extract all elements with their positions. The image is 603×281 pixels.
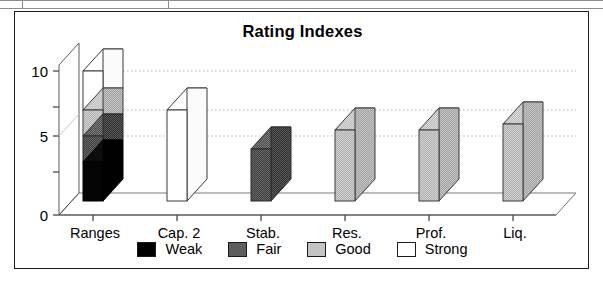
chart-legend: Weak Fair Good Strong xyxy=(15,241,590,257)
x-label-liq: Liq. xyxy=(503,225,526,241)
bar-res[interactable] xyxy=(335,108,375,201)
y-tick-label-0: 0 xyxy=(40,207,48,224)
x-label-ranges: Ranges xyxy=(70,225,120,241)
chart-frame: Rating Indexes xyxy=(14,11,589,269)
legend-label-good: Good xyxy=(335,241,370,257)
bar-prof[interactable] xyxy=(419,108,459,201)
gridlines xyxy=(83,71,576,136)
y-tick-label-10: 10 xyxy=(31,63,48,80)
legend-swatch-fair xyxy=(228,242,247,257)
chart-svg: 10 5 0 xyxy=(15,12,590,270)
plot-area: 10 5 0 xyxy=(15,12,590,270)
legend-label-weak: Weak xyxy=(165,241,202,257)
floor-plane xyxy=(59,193,576,215)
y-axis-ticks xyxy=(53,71,59,215)
x-label-stab: Stab. xyxy=(246,225,280,241)
bar-ranges[interactable] xyxy=(83,49,123,201)
legend-item-fair[interactable]: Fair xyxy=(228,241,281,257)
legend-swatch-good xyxy=(307,242,326,257)
x-label-cap-2: Cap. 2 xyxy=(158,225,201,241)
bar-cap-2[interactable] xyxy=(167,88,207,201)
legend-label-fair: Fair xyxy=(256,241,281,257)
legend-label-strong: Strong xyxy=(425,241,468,257)
legend-item-strong[interactable]: Strong xyxy=(397,241,468,257)
legend-item-good[interactable]: Good xyxy=(307,241,370,257)
legend-swatch-weak xyxy=(137,242,156,257)
bar-liq[interactable] xyxy=(503,102,543,201)
bar-stab[interactable] xyxy=(251,127,291,201)
x-label-res: Res. xyxy=(332,225,362,241)
legend-swatch-strong xyxy=(397,242,416,257)
x-axis-ticks xyxy=(93,215,513,221)
y-axis xyxy=(59,43,79,215)
legend-item-weak[interactable]: Weak xyxy=(137,241,202,257)
scanned-document-artifact xyxy=(0,0,603,9)
y-tick-label-5: 5 xyxy=(40,128,48,145)
x-label-prof: Prof. xyxy=(416,225,447,241)
